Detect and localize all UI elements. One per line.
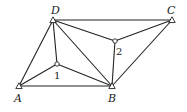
unknown-point-circle-icon — [113, 39, 117, 43]
unknown-point-circle-icon — [55, 62, 59, 66]
edge-2-C — [115, 20, 172, 41]
label-point-D: D — [50, 4, 60, 17]
edge-D-1 — [53, 20, 57, 64]
survey-network-diagram: ABCD12 — [0, 0, 187, 112]
edge-1-B — [57, 64, 112, 86]
label-point-A: A — [13, 92, 22, 105]
label-point-1: 1 — [54, 70, 60, 81]
point-labels: ABCD12 — [13, 4, 176, 105]
label-point-2: 2 — [116, 46, 122, 57]
edge-2-B — [112, 41, 115, 86]
network-edges — [19, 20, 172, 86]
label-point-B: B — [107, 92, 116, 105]
label-point-C: C — [167, 4, 176, 17]
